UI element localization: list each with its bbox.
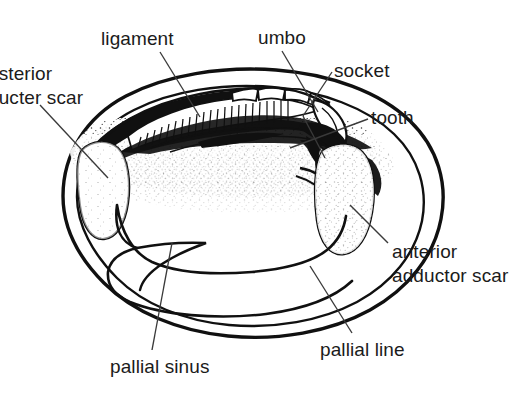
label-socket: socket bbox=[334, 59, 390, 82]
label-umbo: umbo bbox=[258, 26, 306, 49]
label-pallial-line: pallial line bbox=[320, 338, 405, 361]
bivalve-shell-diagram: ligament umbo socket tooth osterior duct… bbox=[0, 0, 516, 402]
label-pallial-sinus: pallial sinus bbox=[110, 355, 210, 378]
label-ligament: ligament bbox=[101, 27, 174, 50]
label-anterior-line-2: adductor scar bbox=[392, 264, 508, 288]
label-posterior-line-1: osterior bbox=[0, 62, 83, 86]
shell-drawing bbox=[0, 0, 516, 402]
label-posterior-line-2: ducter scar bbox=[0, 86, 83, 110]
label-tooth: tooth bbox=[371, 106, 414, 129]
label-posterior-adductor-scar: osterior ducter scar bbox=[0, 62, 83, 110]
label-anterior-line-1: anterior bbox=[392, 240, 508, 264]
label-anterior-adductor-scar: anterior adductor scar bbox=[392, 240, 508, 288]
